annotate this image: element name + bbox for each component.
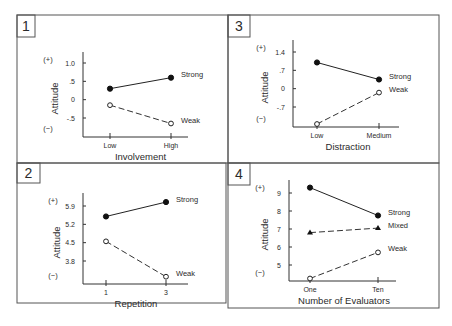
panel-number: 1 (22, 18, 30, 34)
series-label: Weak (181, 116, 200, 125)
y-tick-label: -.7 (277, 104, 285, 111)
panel-border (17, 163, 226, 303)
series-line (310, 228, 378, 233)
series-line (110, 78, 171, 89)
y-tick-label: .7 (279, 67, 285, 74)
chart-panel-3: 31.4.70-.7LowMediumDistractionAttitude(+… (228, 15, 439, 163)
chart-panel-1: 11.0.50-.5LowHighInvolvementAttitude(+)(… (17, 15, 228, 163)
negative-pole-label: (−) (255, 268, 265, 277)
y-tick-label: 8 (277, 208, 281, 215)
series-line (106, 202, 166, 216)
axes (83, 193, 188, 284)
filled-circle-marker-icon (168, 75, 173, 80)
y-tick-label: -.5 (67, 115, 75, 122)
series-line (317, 62, 379, 79)
negative-pole-label: (−) (48, 271, 58, 280)
open-circle-marker-icon (308, 276, 313, 281)
y-tick-label: 7 (277, 226, 281, 233)
panel-number: 2 (25, 165, 33, 181)
negative-pole-label: (−) (256, 114, 266, 123)
series-line (110, 105, 171, 123)
panel-number: 3 (235, 18, 243, 34)
x-category-label: 3 (164, 289, 168, 296)
series-weak: Weak (104, 239, 196, 279)
series-strong: Strong (307, 185, 410, 218)
open-circle-marker-icon (108, 103, 113, 108)
y-tick-label: 1.4 (275, 49, 285, 56)
x-axis-title: Involvement (115, 151, 167, 162)
positive-pole-label: (+) (255, 183, 265, 192)
open-circle-marker-icon (104, 239, 109, 244)
x-category-label: Low (311, 132, 325, 139)
y-tick-label: .5 (69, 78, 75, 85)
filled-circle-marker-icon (375, 213, 380, 218)
filled-circle-marker-icon (307, 185, 312, 190)
positive-pole-label: (+) (48, 196, 58, 205)
series-label: Strong (388, 208, 410, 217)
series-label: Strong (181, 70, 203, 79)
series-strong: Strong (107, 70, 203, 91)
series-line (310, 252, 378, 278)
y-tick-label: 5.2 (65, 221, 75, 228)
series-label: Strong (176, 195, 198, 204)
y-axis-title: Attitude (51, 226, 62, 258)
y-tick-label: 9 (277, 190, 281, 197)
y-tick-label: 3.8 (65, 258, 75, 265)
open-circle-marker-icon (169, 121, 174, 126)
filled-circle-marker-icon (376, 77, 381, 82)
series-line (317, 93, 379, 124)
series-label: Strong (389, 72, 411, 81)
series-label: Weak (389, 85, 408, 94)
panel-number: 4 (235, 166, 243, 182)
x-axis-title: Number of Evaluators (298, 295, 390, 306)
series-strong: Strong (103, 195, 198, 220)
series-label: Mixed (388, 221, 408, 230)
series-line (106, 241, 166, 276)
x-category-label: One (303, 286, 316, 293)
axes (293, 40, 399, 127)
series-weak: Weak (108, 103, 201, 126)
open-circle-marker-icon (376, 250, 381, 255)
x-category-label: High (164, 142, 179, 150)
x-axis-title: Repetition (115, 298, 158, 309)
series-mixed: Mixed (307, 221, 408, 235)
y-tick-label: 5 (277, 262, 281, 269)
open-circle-marker-icon (164, 274, 169, 279)
chart-panel-4: 498765OneTenNumber of EvaluatorsAttitude… (228, 163, 439, 308)
y-tick-label: 4.5 (65, 239, 75, 246)
series-label: Weak (176, 269, 195, 278)
figure: 11.0.50-.5LowHighInvolvementAttitude(+)(… (0, 0, 452, 326)
open-circle-marker-icon (377, 90, 382, 95)
y-axis-title: Attitude (259, 218, 270, 250)
y-axis-title: Attitude (259, 71, 270, 103)
positive-pole-label: (+) (256, 43, 266, 52)
panels-container: 11.0.50-.5LowHighInvolvementAttitude(+)(… (17, 15, 439, 309)
y-tick-label: 6 (277, 244, 281, 251)
series-weak: Weak (308, 244, 408, 281)
x-category-label: 1 (104, 289, 108, 296)
series-strong: Strong (314, 60, 411, 82)
series-line (310, 188, 378, 216)
y-tick-label: 0 (281, 85, 285, 92)
negative-pole-label: (−) (43, 124, 53, 133)
x-category-label: Medium (367, 132, 392, 139)
chart-panel-2: 25.95.24.53.813RepetitionAttitude(+)(−)S… (17, 163, 226, 309)
y-tick-label: 1.0 (65, 60, 75, 67)
series-label: Weak (388, 244, 407, 253)
open-circle-marker-icon (315, 122, 320, 127)
series-weak: Weak (315, 85, 409, 126)
filled-circle-marker-icon (103, 214, 108, 219)
y-tick-label: 0 (71, 96, 75, 103)
x-category-label: Low (104, 142, 118, 149)
positive-pole-label: (+) (43, 55, 53, 64)
y-tick-label: 5.9 (65, 203, 75, 210)
filled-circle-marker-icon (107, 86, 112, 91)
x-axis-title: Distraction (326, 141, 371, 152)
filled-circle-marker-icon (163, 199, 168, 204)
x-category-label: Ten (372, 286, 383, 293)
filled-circle-marker-icon (314, 60, 319, 65)
filled-triangle-marker-icon (375, 225, 381, 230)
y-axis-title: Attitude (49, 82, 60, 114)
